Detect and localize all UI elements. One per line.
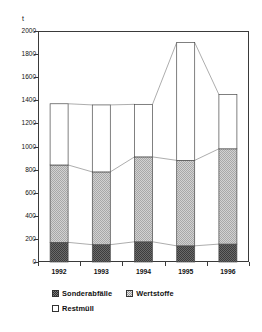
y-axis-tick-label: 1600 [0,74,36,81]
legend-item-label: Sonderabfälle [62,289,112,298]
dark-checker-swatch [52,290,59,297]
y-axis-tick-mark [34,77,38,78]
legend-item[interactable]: Sonderabfälle [52,289,112,298]
x-axis-tick-mark [249,262,250,266]
x-axis-tick-label: 1994 [136,268,151,276]
y-axis-tick-mark [34,216,38,217]
legend-row: Restmüll [52,304,252,313]
chart-legend: SonderabfälleWertstoffeRestmüll [52,289,252,319]
legend-item-label: Restmüll [62,304,94,313]
x-axis-tick-mark [122,262,123,266]
x-axis-tick-mark [80,262,81,266]
y-axis-tick-label: 2000 [0,28,36,35]
y-axis-unit-label: t [22,15,24,23]
legend-row: SonderabfälleWertstoffe [52,289,252,298]
legend-item[interactable]: Wertstoffe [126,289,173,298]
y-axis-tick-label: 1800 [0,51,36,58]
legend-item-label: Wertstoffe [136,289,173,298]
y-axis-tick-label: 1400 [0,97,36,104]
x-axis-tick-label: 1996 [220,268,235,276]
x-axis-tick-mark [165,262,166,266]
y-axis-tick-label: 1000 [0,144,36,151]
y-axis-tick-label: 600 [0,190,36,197]
y-axis-tick-label: 1200 [0,120,36,127]
y-axis-tick-label: 0 [0,259,36,266]
light-dotted-swatch [126,290,133,297]
y-axis-tick-label: 800 [0,167,36,174]
y-axis-tick-mark [34,170,38,171]
y-axis-tick-label: 400 [0,213,36,220]
x-axis-tick-label: 1993 [94,268,109,276]
y-axis-tick-mark [34,193,38,194]
y-axis-tick-mark [34,239,38,240]
y-axis-tick-mark [34,147,38,148]
y-axis-tick-label: 200 [0,236,36,243]
legend-item[interactable]: Restmüll [52,304,94,313]
x-axis-tick-mark [207,262,208,266]
plot-area [38,31,249,262]
y-axis-tick-mark [34,54,38,55]
waste-statistics-chart: t 0200400600800100012001400160018002000 … [0,0,262,332]
y-axis-tick-mark [34,31,38,32]
y-axis-tick-mark [34,123,38,124]
white-swatch [52,305,59,312]
y-axis-tick-mark [34,100,38,101]
x-axis-tick-mark [38,262,39,266]
x-axis-tick-label: 1995 [178,268,193,276]
x-axis-tick-label: 1992 [52,268,67,276]
